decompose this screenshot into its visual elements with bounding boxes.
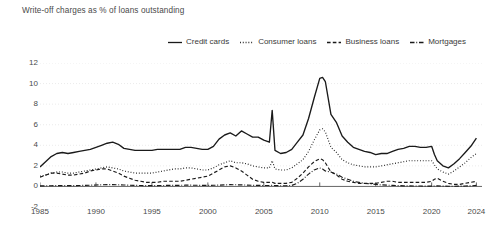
x-axis-label: 1990 [87, 208, 105, 216]
legend-label: Credit cards [186, 38, 229, 46]
series-line-business-loans [40, 159, 476, 185]
chart-legend: Credit cardsConsumer loansBusiness loans… [168, 38, 466, 46]
x-axis: 198519901995200020052010201520202024 [0, 208, 494, 226]
legend-swatch-dotted-icon [240, 39, 254, 46]
legend-label: Mortgages [428, 38, 466, 46]
legend-swatch-dashed-icon [327, 39, 341, 46]
legend-item-business-loans[interactable]: Business loans [327, 38, 399, 46]
x-axis-label: 2005 [255, 208, 273, 216]
chart-svg [40, 63, 482, 207]
x-axis-label: 1995 [143, 208, 161, 216]
legend-item-mortgages[interactable]: Mortgages [410, 38, 466, 46]
x-axis-label: 2010 [311, 208, 329, 216]
legend-item-consumer-loans[interactable]: Consumer loans [240, 38, 316, 46]
x-axis-label: 2000 [199, 208, 217, 216]
plot-area [40, 63, 482, 207]
y-axis-label: 10 [16, 80, 38, 88]
legend-item-credit-cards[interactable]: Credit cards [168, 38, 229, 46]
x-axis-label: 2020 [423, 208, 441, 216]
series-line-mortgages [40, 168, 476, 186]
y-axis-label: 2 [16, 162, 38, 170]
y-axis-label: 6 [16, 121, 38, 129]
y-axis-label: 4 [16, 141, 38, 149]
chart-title: Write-off charges as % of loans outstand… [22, 6, 184, 15]
y-axis-label: 0 [16, 182, 38, 190]
y-axis-label: 8 [16, 100, 38, 108]
series-line-credit-cards [40, 77, 476, 168]
x-axis-label: 1985 [31, 208, 49, 216]
legend-label: Business loans [345, 38, 399, 46]
legend-swatch-solid-icon [168, 39, 182, 46]
y-axis: 121086420-2 [10, 0, 38, 242]
x-axis-label: 2015 [367, 208, 385, 216]
chart-container: Write-off charges as % of loans outstand… [0, 0, 494, 242]
legend-label: Consumer loans [258, 38, 316, 46]
x-axis-label: 2024 [467, 208, 485, 216]
legend-swatch-dash-dot-icon [410, 39, 424, 46]
y-axis-label: 12 [16, 59, 38, 67]
